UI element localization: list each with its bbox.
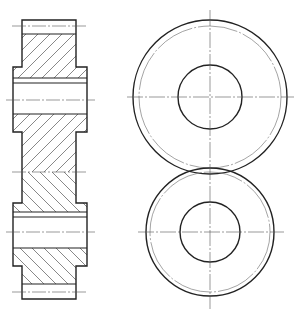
gear-drawing-canvas	[0, 0, 298, 315]
gear-technical-drawing	[0, 0, 298, 315]
upper-gear-bore-circle	[178, 65, 242, 129]
section-view	[6, 20, 95, 299]
end-view-centerlines	[127, 10, 294, 309]
end-view	[127, 10, 294, 309]
